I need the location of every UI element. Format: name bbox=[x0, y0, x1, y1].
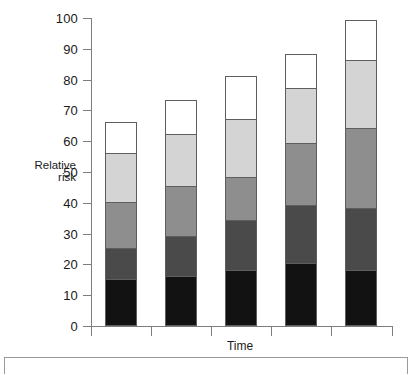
bar-segment-segment-5-white bbox=[165, 100, 197, 135]
y-axis-tick-label: 20 bbox=[34, 258, 78, 271]
bar-segment-segment-3-medium-gray bbox=[225, 177, 257, 221]
figure-bottom-rule-left-cap bbox=[4, 358, 5, 374]
y-axis-tick bbox=[83, 295, 92, 296]
bar-1 bbox=[105, 123, 137, 326]
y-axis-tick-label: 0 bbox=[34, 320, 78, 333]
bar-segment-segment-4-light-gray bbox=[345, 60, 377, 129]
y-axis-tick bbox=[83, 110, 92, 111]
bar-segment-segment-5-white bbox=[285, 54, 317, 89]
bar-segment-segment-2-dark-gray bbox=[225, 220, 257, 271]
y-axis-tick bbox=[83, 49, 92, 50]
bar-segment-segment-1-black bbox=[165, 276, 197, 326]
y-axis-tick bbox=[83, 264, 92, 265]
y-axis-tick-label: 10 bbox=[34, 289, 78, 302]
x-axis-tick bbox=[91, 326, 92, 336]
bar-segment-segment-4-light-gray bbox=[285, 88, 317, 144]
bar-segment-segment-2-dark-gray bbox=[285, 205, 317, 264]
figure-bottom-rule-right-cap bbox=[407, 358, 408, 374]
bar-5 bbox=[345, 21, 377, 326]
y-axis-tick-label: 60 bbox=[34, 135, 78, 148]
x-axis-title: Time bbox=[150, 340, 330, 353]
x-axis-tick bbox=[151, 326, 152, 336]
bar-4 bbox=[285, 55, 317, 326]
bar-3 bbox=[225, 77, 257, 326]
bar-segment-segment-5-white bbox=[225, 76, 257, 120]
y-axis-tick bbox=[83, 141, 92, 142]
bar-segment-segment-4-light-gray bbox=[225, 119, 257, 178]
x-axis-tick bbox=[331, 326, 332, 336]
bar-segment-segment-2-dark-gray bbox=[345, 208, 377, 271]
y-axis-tick-label: 70 bbox=[34, 104, 78, 117]
x-axis-line bbox=[91, 326, 393, 327]
bar-segment-segment-5-white bbox=[345, 20, 377, 61]
bar-segment-segment-4-light-gray bbox=[165, 134, 197, 187]
bar-segment-segment-3-medium-gray bbox=[285, 143, 317, 206]
bar-segment-segment-1-black bbox=[225, 270, 257, 326]
y-axis-tick bbox=[83, 80, 92, 81]
y-axis-tick bbox=[83, 203, 92, 204]
y-axis-tick-label: 80 bbox=[34, 74, 78, 87]
y-axis-tick bbox=[83, 18, 92, 19]
bar-segment-segment-1-black bbox=[345, 270, 377, 326]
bar-segment-segment-5-white bbox=[105, 122, 137, 154]
bar-segment-segment-3-medium-gray bbox=[105, 202, 137, 249]
bar-segment-segment-3-medium-gray bbox=[345, 128, 377, 209]
y-axis-tick-label: 30 bbox=[34, 228, 78, 241]
y-axis-tick bbox=[83, 172, 92, 173]
bar-segment-segment-2-dark-gray bbox=[165, 236, 197, 277]
x-axis-tick bbox=[392, 326, 393, 336]
y-axis-tick-label: 50 bbox=[34, 166, 78, 179]
y-axis-tick bbox=[83, 234, 92, 235]
bar-2 bbox=[165, 101, 197, 326]
x-axis-tick bbox=[271, 326, 272, 336]
y-axis-tick-label: 40 bbox=[34, 197, 78, 210]
y-axis-tick-label: 90 bbox=[34, 43, 78, 56]
bar-segment-segment-1-black bbox=[105, 279, 137, 326]
bar-segment-segment-3-medium-gray bbox=[165, 186, 197, 237]
stacked-bar-chart: Relative risk 1009080706050403020100 Tim… bbox=[0, 0, 411, 375]
figure-bottom-rule bbox=[4, 357, 408, 358]
bar-segment-segment-1-black bbox=[285, 263, 317, 326]
x-axis-tick bbox=[211, 326, 212, 336]
bar-segment-segment-2-dark-gray bbox=[105, 248, 137, 280]
bar-segment-segment-4-light-gray bbox=[105, 153, 137, 203]
y-axis-tick-label: 100 bbox=[34, 12, 78, 25]
